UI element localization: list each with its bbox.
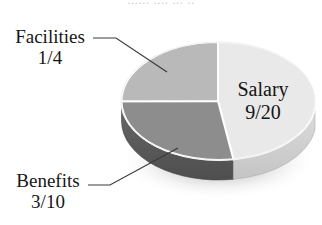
slice-label-salary: Salary 9/20 [222, 78, 304, 124]
slice-label-facilities-category: Facilities [4, 26, 96, 47]
slice-label-benefits-fraction: 3/10 [2, 191, 94, 212]
slice-label-salary-category: Salary [222, 78, 304, 101]
slice-label-salary-fraction: 9/20 [222, 101, 304, 124]
slice-label-benefits-category: Benefits [2, 170, 94, 191]
pie-chart-figure: ...... .... ... .. [0, 0, 322, 225]
slice-label-facilities-fraction: 1/4 [4, 47, 96, 68]
slice-label-benefits: Benefits 3/10 [2, 170, 94, 212]
slice-label-facilities: Facilities 1/4 [4, 26, 96, 68]
